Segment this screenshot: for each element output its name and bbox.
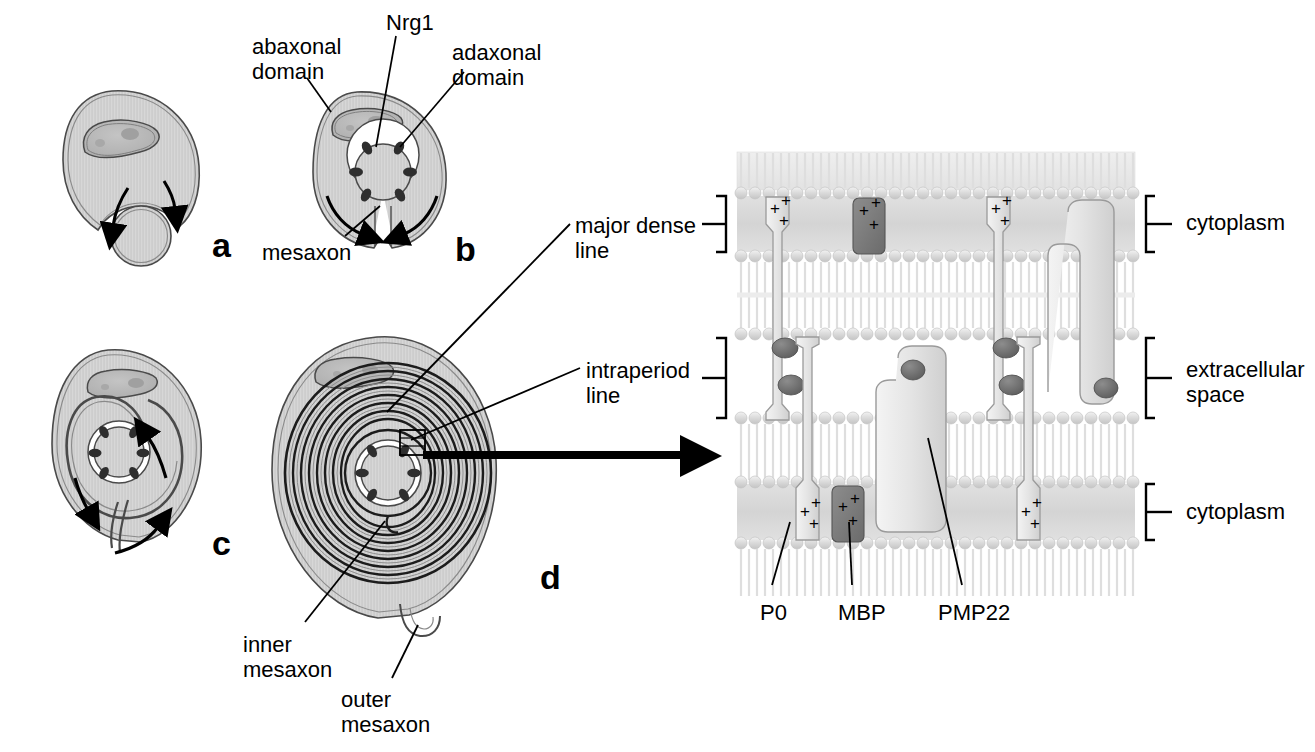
svg-text:+: + — [850, 489, 860, 508]
label-mbp: MBP — [838, 600, 886, 625]
svg-text:+: + — [781, 191, 791, 210]
leader-outer-mesaxon — [392, 625, 418, 678]
svg-text:+: + — [779, 211, 789, 230]
label-abaxonal-domain: abaxonal domain — [252, 34, 341, 84]
figure-canvas: +++ +++ +++ +++ +++ +++ abaxonal domain … — [0, 0, 1315, 752]
panel-letter-b: b — [455, 232, 476, 266]
label-cytoplasm-top: cytoplasm — [1186, 210, 1285, 235]
label-adaxonal-domain: adaxonal domain — [452, 40, 541, 90]
label-cytoplasm-bottom: cytoplasm — [1186, 499, 1285, 524]
bracket-intraperiod — [702, 338, 726, 418]
svg-text:+: + — [859, 201, 869, 220]
svg-text:+: + — [1032, 493, 1042, 512]
svg-text:+: + — [871, 193, 881, 212]
head-row-1 — [735, 187, 1139, 199]
panel-d-graphic — [272, 224, 722, 678]
svg-text:+: + — [1002, 191, 1012, 210]
bracket-cytoplasm-bottom — [1146, 484, 1172, 540]
bracket-major-dense — [702, 196, 726, 252]
bilayer-bottom — [741, 549, 1133, 596]
label-pmp22: PMP22 — [938, 600, 1010, 625]
label-nrg1: Nrg1 — [386, 10, 434, 35]
panel-letter-c: c — [212, 526, 231, 560]
panel-letter-a: a — [212, 228, 231, 262]
membrane-diagram — [702, 152, 1172, 596]
label-p0: P0 — [760, 600, 787, 625]
panel-c-graphic — [52, 350, 201, 553]
label-inner-mesaxon: inner mesaxon — [243, 632, 332, 682]
label-intraperiod-line: intraperiod line — [586, 358, 690, 408]
label-extracellular-space: extracellular space — [1186, 357, 1305, 407]
svg-text:+: + — [1000, 211, 1010, 230]
panel-letter-d: d — [540, 560, 561, 594]
svg-text:+: + — [848, 511, 858, 530]
label-major-dense-line: major dense line — [575, 213, 696, 263]
label-outer-mesaxon: outer mesaxon — [341, 687, 430, 737]
svg-text:+: + — [811, 493, 821, 512]
svg-text:+: + — [869, 215, 879, 234]
head-row-2 — [735, 250, 1139, 262]
panel-a-graphic — [63, 91, 199, 266]
bracket-cytoplasm-top — [1146, 196, 1172, 252]
label-mesaxon: mesaxon — [262, 240, 351, 265]
svg-text:+: + — [838, 497, 848, 516]
svg-text:+: + — [1030, 514, 1040, 533]
protein-pmp22-2 — [876, 346, 946, 532]
bilayer-top-outer — [737, 152, 1135, 190]
svg-text:+: + — [809, 514, 819, 533]
bracket-extracellular — [1146, 338, 1172, 418]
